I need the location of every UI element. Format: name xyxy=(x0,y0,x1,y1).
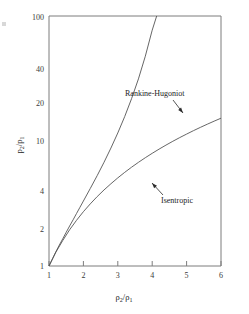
chart-canvas: 100 40 20 10 4 2 1 1 2 3 4 5 6 Rankine-H… xyxy=(0,0,249,314)
y-tick-label-1: 1 xyxy=(40,262,44,271)
stray-artifact xyxy=(2,22,6,26)
isentropic-label: Isentropic xyxy=(161,196,193,205)
x-tick-label-3: 3 xyxy=(116,271,120,280)
chart-figure: 100 40 20 10 4 2 1 1 2 3 4 5 6 Rankine-H… xyxy=(0,0,249,314)
y-tick-label-20: 20 xyxy=(36,99,44,108)
y-tick-label-2: 2 xyxy=(40,225,44,234)
x-axis-title-den-sub: 1 xyxy=(129,297,132,303)
x-tick-label-4: 4 xyxy=(150,271,154,280)
x-axis-tick-labels: 1 2 3 4 5 6 xyxy=(47,271,223,280)
x-tick-label-5: 5 xyxy=(185,271,189,280)
x-tick-label-6: 6 xyxy=(219,271,223,280)
isentropic-annotation: Isentropic xyxy=(152,183,193,205)
y-tick-label-100: 100 xyxy=(32,13,44,22)
x-tick-label-2: 2 xyxy=(81,271,85,280)
rankine-hugoniot-arrow-head xyxy=(178,108,183,113)
y-axis-tick-labels: 100 40 20 10 4 2 1 xyxy=(32,13,44,272)
y-axis-title-den-sub: 1 xyxy=(19,137,25,140)
x-tick-label-1: 1 xyxy=(47,271,51,280)
svg-text:p2/p1: p2/p1 xyxy=(14,137,25,154)
x-axis-title: ρ2/ρ1 xyxy=(116,292,133,303)
rankine-hugoniot-curve xyxy=(49,16,157,266)
x-axis-ticks xyxy=(49,261,221,266)
y-tick-label-40: 40 xyxy=(36,65,44,74)
rankine-hugoniot-label: Rankine-Hugoniot xyxy=(125,89,185,98)
y-tick-label-4: 4 xyxy=(40,187,44,196)
isentropic-curve xyxy=(49,118,221,266)
rankine-hugoniot-annotation: Rankine-Hugoniot xyxy=(125,89,185,113)
plot-frame xyxy=(49,16,221,266)
y-tick-label-10: 10 xyxy=(36,137,44,146)
svg-text:ρ2/ρ1: ρ2/ρ1 xyxy=(116,292,133,303)
y-axis-title: p2/p1 xyxy=(14,137,25,154)
